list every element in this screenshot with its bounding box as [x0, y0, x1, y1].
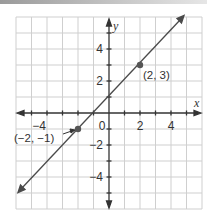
y-axis-up-arrow-icon [107, 19, 112, 26]
x-tick-label-2: 2 [137, 119, 144, 133]
x-tick-label-neg4: −4 [32, 119, 46, 133]
x-axis-label: x [193, 96, 200, 110]
y-tick-label-neg4: −4 [89, 170, 103, 184]
x-axis-right-arrow-icon [194, 111, 201, 116]
x-tick-label-4: 4 [168, 119, 175, 133]
point-2-3 [137, 62, 143, 68]
y-tick-label-2: 2 [96, 74, 103, 88]
point-neg2-neg1 [75, 126, 81, 132]
y-tick-label-4: 4 [96, 42, 103, 56]
coordinate-plane: y x −4 0 2 4 4 2 −2 −4 (−2, −1) (2, 3) [0, 0, 207, 222]
origin-label: 0 [99, 119, 106, 133]
y-axis-down-arrow-icon [107, 201, 112, 208]
x-axis-left-arrow-icon [17, 111, 24, 116]
y-axis-label: y [112, 19, 119, 33]
point-label-2-3: (2, 3) [143, 69, 170, 81]
y-tick-label-neg2: −2 [89, 138, 103, 152]
point-label-neg2-neg1: (−2, −1) [14, 132, 54, 144]
